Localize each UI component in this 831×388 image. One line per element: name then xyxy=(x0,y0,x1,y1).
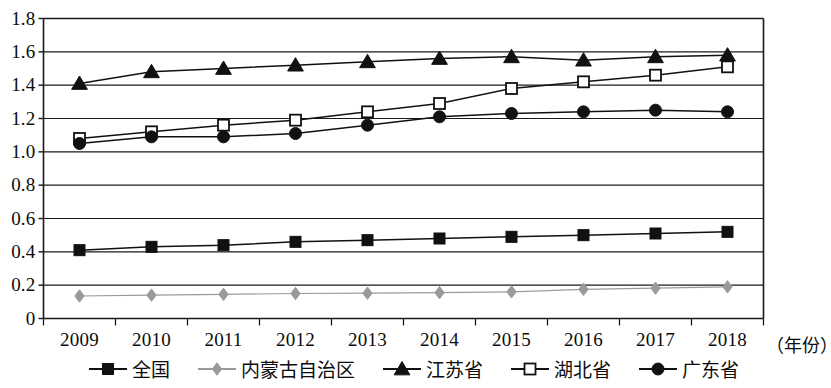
series-line-江苏省 xyxy=(80,55,728,83)
marker-filled-circle xyxy=(650,104,662,116)
legend-label-内蒙古自治区: 内蒙古自治区 xyxy=(241,355,355,382)
series-湖北省 xyxy=(74,61,733,144)
marker-filled-square xyxy=(434,233,445,244)
marker-filled-square xyxy=(218,240,229,251)
marker-open-square xyxy=(650,70,661,81)
legend-marker-filled-triangle-icon xyxy=(381,359,423,379)
marker-filled-circle xyxy=(434,111,446,123)
y-tick-label-0.8: 0.8 xyxy=(11,174,35,196)
marker-filled-diamond xyxy=(651,282,660,294)
marker-filled-square xyxy=(650,228,661,239)
x-tick-label-2014: 2014 xyxy=(420,329,459,351)
legend-label-全国: 全国 xyxy=(132,355,170,382)
x-tick-label-2009: 2009 xyxy=(60,329,99,351)
x-tick-label-2012: 2012 xyxy=(276,329,315,351)
legend-item-湖北省[interactable]: 湖北省 xyxy=(509,355,611,382)
y-tick-label-0.2: 0.2 xyxy=(11,274,35,296)
series-全国 xyxy=(74,226,733,255)
marker-filled-square xyxy=(146,241,157,252)
marker-filled-circle xyxy=(652,363,664,375)
y-tick-label-1.8: 1.8 xyxy=(11,8,35,30)
marker-filled-square xyxy=(290,236,301,247)
marker-filled-diamond xyxy=(75,290,84,302)
x-tick-label-2011: 2011 xyxy=(204,329,242,351)
marker-open-square xyxy=(506,83,517,94)
legend-label-江苏省: 江苏省 xyxy=(426,355,483,382)
legend-item-广东省[interactable]: 广东省 xyxy=(637,355,739,382)
marker-open-square xyxy=(218,120,229,131)
marker-filled-diamond xyxy=(723,281,732,293)
marker-filled-diamond xyxy=(507,286,516,298)
legend-marker-filled-diamond-icon xyxy=(196,359,238,379)
marker-filled-triangle xyxy=(720,48,736,61)
x-tick-label-2010: 2010 xyxy=(132,329,171,351)
y-tick-label-1.0: 1.0 xyxy=(11,141,35,163)
marker-filled-circle xyxy=(578,106,590,118)
y-tick-label-0.6: 0.6 xyxy=(11,208,35,230)
marker-filled-circle xyxy=(506,108,518,120)
marker-open-square xyxy=(722,61,733,72)
marker-filled-circle xyxy=(74,138,86,150)
marker-filled-square xyxy=(722,226,733,237)
marker-filled-circle xyxy=(362,119,374,131)
series-line-内蒙古自治区 xyxy=(80,287,728,296)
marker-filled-square xyxy=(578,230,589,241)
legend-label-广东省: 广东省 xyxy=(682,355,739,382)
x-tick-label-2018: 2018 xyxy=(708,329,747,351)
x-tick-label-2013: 2013 xyxy=(348,329,387,351)
marker-filled-circle xyxy=(146,131,158,143)
marker-filled-circle xyxy=(218,131,230,143)
legend-label-湖北省: 湖北省 xyxy=(554,355,611,382)
series-广东省 xyxy=(74,104,734,149)
marker-filled-diamond xyxy=(291,287,300,299)
series-line-广东省 xyxy=(80,110,728,143)
marker-open-square xyxy=(525,363,536,374)
y-tick-label-1.2: 1.2 xyxy=(11,108,35,130)
marker-filled-square xyxy=(362,235,373,246)
legend-marker-filled-square-icon xyxy=(87,359,129,379)
series-江苏省 xyxy=(72,48,736,90)
chart-legend: 全国内蒙古自治区江苏省湖北省广东省 xyxy=(0,355,826,382)
y-tick-label-1.4: 1.4 xyxy=(11,74,35,96)
marker-open-square xyxy=(578,76,589,87)
legend-marker-filled-circle-icon xyxy=(637,359,679,379)
marker-open-square xyxy=(434,98,445,109)
marker-filled-diamond xyxy=(147,289,156,301)
marker-filled-circle xyxy=(290,128,302,140)
series-内蒙古自治区 xyxy=(75,281,732,303)
marker-filled-square xyxy=(103,363,114,374)
marker-filled-diamond xyxy=(435,286,444,298)
y-tick-label-0.4: 0.4 xyxy=(11,241,35,263)
marker-filled-square xyxy=(506,231,517,242)
marker-open-square xyxy=(362,106,373,117)
x-axis-title: （年份） xyxy=(766,331,831,357)
marker-filled-diamond xyxy=(219,288,228,300)
legend-item-江苏省[interactable]: 江苏省 xyxy=(381,355,483,382)
marker-filled-circle xyxy=(722,106,734,118)
legend-item-全国[interactable]: 全国 xyxy=(87,355,170,382)
marker-filled-diamond xyxy=(363,287,372,299)
x-tick-label-2016: 2016 xyxy=(564,329,603,351)
legend-item-内蒙古自治区[interactable]: 内蒙古自治区 xyxy=(196,355,355,382)
marker-open-square xyxy=(290,115,301,126)
x-tick-label-2017: 2017 xyxy=(636,329,675,351)
marker-filled-square xyxy=(74,245,85,256)
x-tick-label-2015: 2015 xyxy=(492,329,531,351)
legend-marker-open-square-icon xyxy=(509,359,551,379)
marker-filled-diamond xyxy=(212,362,221,374)
series-line-全国 xyxy=(80,232,728,250)
y-tick-label-1.6: 1.6 xyxy=(11,41,35,63)
y-tick-label-0: 0 xyxy=(26,308,36,330)
series-line-湖北省 xyxy=(80,67,728,139)
